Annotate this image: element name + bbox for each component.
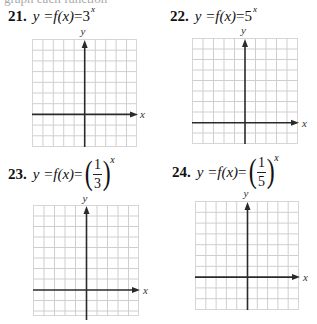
y-axis-arrow-icon <box>245 202 251 210</box>
x-axis-label: x <box>302 271 308 283</box>
coordinate-grid: x y <box>0 0 317 324</box>
y-axis-label: y <box>243 187 249 199</box>
